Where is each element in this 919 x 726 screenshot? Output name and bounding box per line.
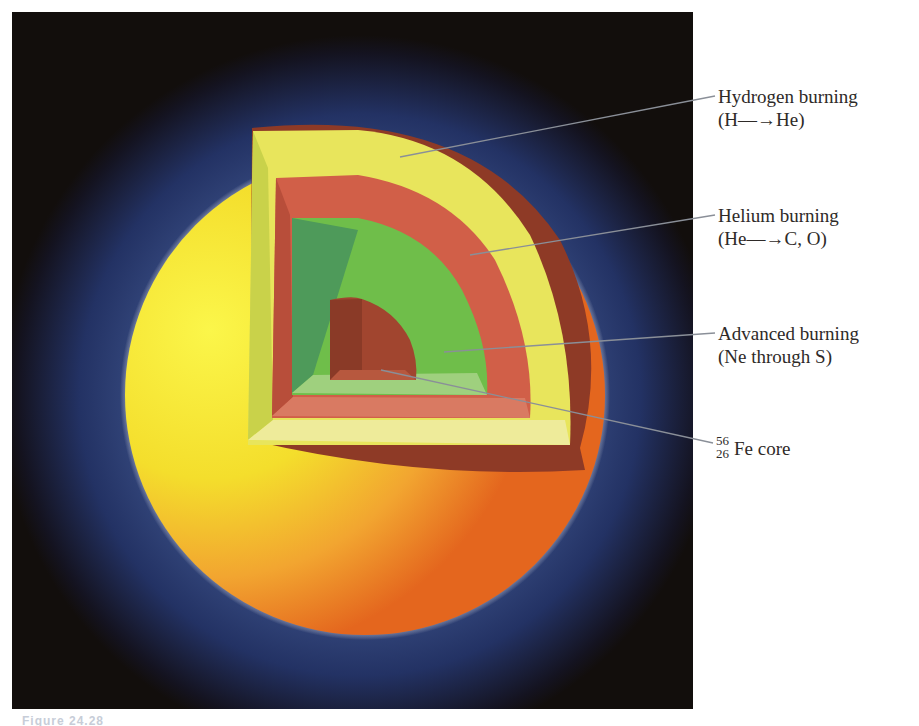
isotope-atomic-number: 26 <box>716 448 729 459</box>
label-advanced-burning: Advanced burning (Ne through S) <box>718 322 859 368</box>
label-helium-name: Helium burning <box>718 204 839 227</box>
helium-shell-floor <box>272 397 530 418</box>
label-hydrogen-reaction: (H—→He) <box>718 108 858 131</box>
iron-core-left-face <box>330 299 362 380</box>
label-helium-burning: Helium burning (He—→C, O) <box>718 204 839 250</box>
figure-caption: Figure 24.28 <box>22 714 104 726</box>
label-advanced-name: Advanced burning <box>718 322 859 345</box>
label-helium-reaction: (He—→C, O) <box>718 227 839 250</box>
label-advanced-reaction: (Ne through S) <box>718 345 859 368</box>
label-hydrogen-burning: Hydrogen burning (H—→He) <box>718 85 858 131</box>
label-iron-core: 56 26 Fe core <box>716 437 790 461</box>
label-iron-name: Fe core <box>734 438 790 459</box>
label-hydrogen-name: Hydrogen burning <box>718 85 858 108</box>
iron-isotope-notation: 56 26 <box>716 439 734 461</box>
isotope-mass-number: 56 <box>716 435 729 446</box>
